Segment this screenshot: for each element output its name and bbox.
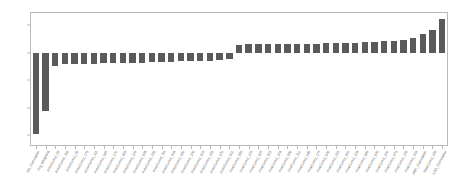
x-axis-tick-mark xyxy=(278,146,279,149)
bar xyxy=(391,41,397,53)
bar xyxy=(52,53,58,66)
x-axis-tick-mark xyxy=(345,146,346,149)
x-axis-tick-mark xyxy=(171,146,172,149)
bar xyxy=(207,53,213,61)
x-axis-tick-mark xyxy=(46,146,47,149)
bar xyxy=(178,53,184,62)
bar xyxy=(81,53,87,64)
bar xyxy=(323,43,329,53)
x-axis-tick-mark xyxy=(191,146,192,149)
x-axis-tick-mark xyxy=(181,146,182,149)
y-axis-tick-mark xyxy=(27,52,30,53)
bar xyxy=(429,30,435,53)
x-axis-tick-mark xyxy=(316,146,317,149)
bar xyxy=(304,44,310,53)
x-axis-tick-mark xyxy=(36,146,37,149)
bar xyxy=(362,42,368,52)
bar xyxy=(129,53,135,63)
bar xyxy=(255,44,261,53)
x-axis-tick-mark xyxy=(258,146,259,149)
bar xyxy=(91,53,97,64)
bar xyxy=(197,53,203,61)
x-axis-tick-mark xyxy=(239,146,240,149)
y-axis-tick-mark xyxy=(27,80,30,81)
x-axis-tick-mark xyxy=(365,146,366,149)
bar xyxy=(275,44,281,53)
bar xyxy=(420,34,426,52)
bar xyxy=(168,53,174,62)
bar xyxy=(33,53,39,134)
x-axis-tick-mark xyxy=(336,146,337,149)
x-axis-tick-mark xyxy=(403,146,404,149)
bar xyxy=(42,53,48,111)
bar xyxy=(236,45,242,53)
bar xyxy=(71,53,77,64)
bar-chart-figure: 10-1-2-3 Mo_CumulativeArg_WeightedAmeCum… xyxy=(0,0,463,192)
x-axis-tick-mark xyxy=(394,146,395,149)
x-axis-tick-mark xyxy=(287,146,288,149)
bar xyxy=(410,38,416,53)
bar xyxy=(400,40,406,53)
y-axis-tick-mark xyxy=(27,107,30,108)
x-axis-tick-mark xyxy=(152,146,153,149)
x-axis-tick-mark xyxy=(413,146,414,149)
bar xyxy=(110,53,116,63)
bar xyxy=(216,53,222,60)
x-axis-tick-mark xyxy=(442,146,443,149)
bar xyxy=(226,53,232,60)
x-axis-tick-mark xyxy=(84,146,85,149)
bar-series xyxy=(31,13,447,145)
x-axis-tick-mark xyxy=(142,146,143,149)
bar xyxy=(158,53,164,62)
x-axis-tick-mark xyxy=(55,146,56,149)
y-axis-tick-mark xyxy=(27,135,30,136)
x-axis-tick-mark xyxy=(384,146,385,149)
x-axis-tick-mark xyxy=(104,146,105,149)
bar xyxy=(381,41,387,53)
bar xyxy=(439,19,445,53)
y-axis: 10-1-2-3 xyxy=(0,0,30,192)
bar xyxy=(352,43,358,53)
x-axis-tick-mark xyxy=(374,146,375,149)
x-axis-tick-mark xyxy=(326,146,327,149)
bar xyxy=(313,44,319,53)
bar xyxy=(120,53,126,63)
x-axis-tick-mark xyxy=(75,146,76,149)
x-axis-tick-mark xyxy=(210,146,211,149)
x-axis-tick-mark xyxy=(162,146,163,149)
bar xyxy=(265,44,271,53)
bar xyxy=(149,53,155,62)
bar xyxy=(187,53,193,61)
bar xyxy=(62,53,68,65)
x-axis-tick-mark xyxy=(268,146,269,149)
x-axis-tick-mark xyxy=(229,146,230,149)
y-axis-tick-mark xyxy=(27,25,30,26)
bar xyxy=(342,43,348,53)
bar xyxy=(294,44,300,53)
bar xyxy=(245,44,251,53)
bar xyxy=(284,44,290,53)
x-axis-tick-mark xyxy=(113,146,114,149)
x-axis-tick-mark xyxy=(133,146,134,149)
x-axis-tick-mark xyxy=(220,146,221,149)
bar xyxy=(100,53,106,63)
x-axis-tick-mark xyxy=(307,146,308,149)
x-axis-tick-mark xyxy=(200,146,201,149)
x-axis-tick-mark xyxy=(123,146,124,149)
bar xyxy=(333,43,339,53)
x-axis-tick-mark xyxy=(249,146,250,149)
x-axis-tick-mark xyxy=(355,146,356,149)
bar xyxy=(139,53,145,63)
bar xyxy=(371,42,377,53)
x-axis-tick-mark xyxy=(65,146,66,149)
